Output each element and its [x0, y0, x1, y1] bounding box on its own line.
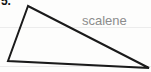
scalene-triangle-figure [0, 0, 151, 72]
worksheet-figure-screenshot: 5. scalene [0, 0, 151, 72]
triangle-outline [8, 6, 149, 68]
problem-number-label: 5. [1, 0, 11, 7]
shape-type-label: scalene [82, 13, 127, 28]
